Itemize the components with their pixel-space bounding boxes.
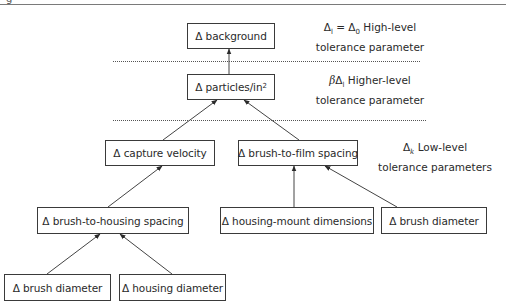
annotation-line-1: Δk Low-level: [370, 140, 500, 160]
edge-brush-diameter-left-to-brush-to-housing: [47, 234, 100, 274]
node-label: particles/in: [206, 81, 263, 93]
node-background: Δ background: [187, 23, 275, 49]
node-label: brush-to-film spacing: [248, 147, 358, 159]
node-label: brush diameter: [23, 282, 102, 294]
node-particles-per-sq-in: Δ particles/in2: [187, 74, 275, 100]
delta-symbol: Δ: [238, 147, 245, 159]
delta-symbol: Δ: [113, 147, 120, 159]
node-label: housing-mount dimensions: [232, 215, 372, 227]
node-capture-velocity: Δ capture velocity: [105, 140, 215, 166]
node-brush-diameter-left: Δ brush diameter: [4, 274, 111, 301]
annotation-line-2: tolerance parameter: [308, 93, 432, 108]
annotation-line-2: tolerance parameters: [370, 160, 500, 175]
delta-symbol: Δ: [195, 81, 202, 93]
node-housing-diameter: Δ housing diameter: [119, 274, 226, 301]
edge-housing-diameter-to-brush-to-housing: [120, 234, 172, 274]
node-label: brush diameter: [400, 215, 479, 227]
node-label: background: [206, 30, 267, 42]
node-housing-mount-dimensions: Δ housing-mount dimensions: [220, 207, 374, 234]
delta-symbol: Δ: [389, 215, 396, 227]
delta-symbol: Δ: [13, 282, 20, 294]
delta-symbol: Δ: [122, 282, 129, 294]
edge-brush-to-housing-to-capture-velocity: [108, 166, 162, 207]
annotation-line-1: Δl = Δ0 High-level: [308, 20, 432, 40]
level-separator-bottom: [113, 120, 426, 121]
node-brush-to-housing-spacing: Δ brush-to-housing spacing: [37, 207, 189, 234]
node-label: brush-to-housing spacing: [53, 215, 184, 227]
level-separator-top: [113, 61, 420, 62]
annotation-low-level: Δk Low-level tolerance parameters: [370, 140, 500, 175]
annotation-line-1: βΔl Higher-level: [308, 73, 432, 93]
delta-symbol: Δ: [195, 30, 202, 42]
node-label: housing diameter: [132, 282, 223, 294]
delta-symbol: Δ: [42, 215, 49, 227]
annotation-high-level: Δl = Δ0 High-level tolerance parameter: [308, 20, 432, 55]
delta-symbol: Δ: [222, 215, 229, 227]
superscript: 2: [262, 82, 266, 90]
annotation-higher-level: βΔl Higher-level tolerance parameter: [308, 73, 432, 108]
annotation-line-2: tolerance parameter: [308, 40, 432, 55]
node-brush-diameter-right: Δ brush diameter: [381, 207, 487, 234]
node-brush-to-film-spacing: Δ brush-to-film spacing: [238, 140, 358, 166]
node-label: capture velocity: [124, 147, 207, 159]
